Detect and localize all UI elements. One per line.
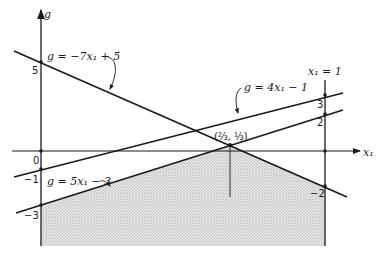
tick-label-0: 0	[33, 155, 39, 166]
point-g-minus3	[39, 203, 43, 207]
point-g-minus1	[39, 167, 43, 171]
intersection-label: (⅔, ⅓)	[214, 131, 248, 142]
tick-label-minus3: −3	[24, 210, 39, 221]
tick-label-5: 5	[32, 65, 38, 76]
x1-equals-1-label: x₁ = 1	[308, 65, 342, 78]
point-right-2	[323, 112, 327, 116]
point-g-0	[39, 149, 43, 153]
g-axis-label: g	[44, 8, 51, 21]
tick-label-right-minus2: −2	[310, 188, 325, 199]
tick-label-minus1: −1	[24, 174, 39, 185]
x1-axis-label: x₁	[363, 146, 374, 159]
tick-label-right-2: 2	[317, 117, 323, 128]
label-line-b: g = 4x₁ − 1	[244, 81, 308, 94]
tick-label-right-3: 3	[317, 99, 323, 110]
point-right-axis	[323, 149, 327, 153]
label-line-a: g = −7x₁ + 5	[47, 50, 120, 63]
point-g-5	[39, 60, 43, 64]
point-right-3	[323, 93, 327, 97]
label-line-c: g = 5x₁ − 3	[47, 175, 111, 188]
piecewise-linear-diagram: g x₁ x₁ = 1 g = −7x₁ + 5 g = 4x₁ − 1 g =…	[0, 0, 385, 258]
pointer-arrow-line-b	[236, 88, 241, 113]
intersection-point	[228, 143, 232, 147]
